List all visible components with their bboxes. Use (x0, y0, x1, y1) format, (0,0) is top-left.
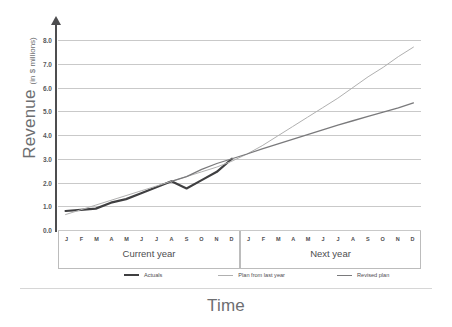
x-axis-title: Time (0, 296, 452, 316)
plot-area: 0.01.02.03.04.05.06.07.08.0 (58, 40, 421, 230)
x-axis-month-label: S (179, 231, 194, 247)
legend-swatch-icon (124, 274, 139, 276)
x-axis-month-label: F (74, 231, 89, 247)
year-band-next: JFMAMJJASOND Next year (240, 231, 421, 269)
x-axis-month-label: J (149, 231, 164, 247)
legend-item[interactable]: Actuals (124, 272, 162, 278)
y-axis-unit-text: (in $ millions) (28, 37, 37, 84)
y-axis-tick-label: 0.0 (43, 227, 52, 234)
year-label-current: Current year (59, 248, 239, 259)
y-axis-tick-label: 2.0 (43, 179, 52, 186)
x-axis-month-label: M (119, 231, 134, 247)
y-axis-tick-label: 6.0 (43, 84, 52, 91)
legend-label: Actuals (144, 272, 162, 278)
x-axis-month-label: N (209, 231, 224, 247)
x-axis-month-label: N (390, 231, 405, 247)
legend-swatch-icon (337, 275, 352, 276)
x-axis-month-label: D (224, 231, 239, 247)
x-axis-month-label: F (256, 231, 271, 247)
y-axis-tick-label: 4.0 (43, 132, 52, 139)
month-row-current: JFMAMJJASOND (59, 231, 239, 247)
x-axis-month-label: M (301, 231, 316, 247)
y-axis-tick-label: 7.0 (43, 60, 52, 67)
x-axis-month-label: S (360, 231, 375, 247)
legend-label: Revised plan (357, 272, 389, 278)
x-axis-month-label: A (286, 231, 301, 247)
x-axis-month-label: A (104, 231, 119, 247)
legend-item[interactable]: Revised plan (337, 272, 389, 278)
y-axis-title-text: Revenue (20, 89, 39, 158)
x-axis-month-label: A (345, 231, 360, 247)
x-axis-month-label: J (316, 231, 331, 247)
series-lines (58, 40, 421, 230)
legend-label: Plan from last year (238, 272, 285, 278)
month-row-next: JFMAMJJASOND (241, 231, 420, 247)
x-axis-month-label: M (271, 231, 286, 247)
series-line (66, 159, 232, 211)
x-axis-month-label: M (89, 231, 104, 247)
x-axis-month-label: O (375, 231, 390, 247)
revenue-line-chart: Revenue (in $ millions) 0.01.02.03.04.05… (0, 0, 452, 327)
legend-swatch-icon (218, 275, 233, 276)
x-axis-month-label: O (194, 231, 209, 247)
year-label-next: Next year (241, 248, 420, 259)
x-axis-month-label: D (405, 231, 420, 247)
y-axis-title: Revenue (in $ millions) (20, 8, 40, 188)
year-band-current: JFMAMJJASOND Current year (58, 231, 240, 269)
y-axis-tick-label: 5.0 (43, 108, 52, 115)
series-line (66, 47, 414, 214)
y-axis-tick-label: 3.0 (43, 155, 52, 162)
chart-legend: ActualsPlan from last yearRevised plan (58, 272, 421, 278)
x-axis-month-label: J (134, 231, 149, 247)
y-axis-line (55, 24, 57, 232)
x-axis-month-label: A (164, 231, 179, 247)
x-axis-month-label: J (331, 231, 346, 247)
x-axis-month-label: J (59, 231, 74, 247)
y-axis-tick-label: 8.0 (43, 37, 52, 44)
legend-item[interactable]: Plan from last year (218, 272, 285, 278)
y-axis-tick-label: 1.0 (43, 203, 52, 210)
x-axis-month-label: J (241, 231, 256, 247)
bottom-divider (20, 288, 432, 289)
